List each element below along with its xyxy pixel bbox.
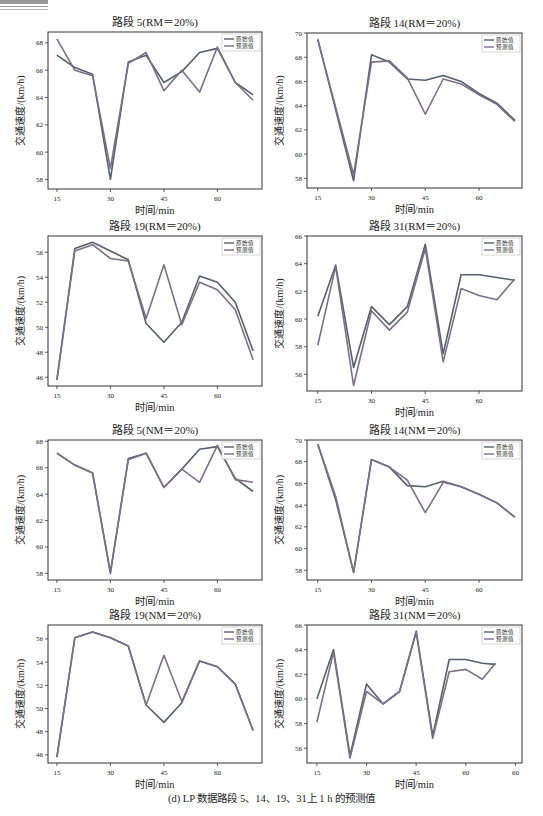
- y-tick-label: 62: [295, 523, 303, 531]
- x-tick-label: 60: [214, 195, 222, 203]
- series-original-line: [318, 444, 515, 572]
- y-tick-label: 64: [295, 646, 303, 654]
- legend-label: 原始值: [496, 36, 514, 44]
- y-tick-label: 60: [36, 543, 44, 551]
- x-tick-label: 30: [107, 392, 115, 400]
- y-axis-label: 交通速度/(km/h): [14, 276, 27, 346]
- legend-label: 预测值: [236, 450, 254, 458]
- y-tick-label: 54: [36, 659, 44, 667]
- y-tick-label: 68: [36, 39, 44, 47]
- plot-frame: [48, 625, 262, 763]
- x-tick-label: 30: [368, 397, 376, 405]
- y-tick-label: 64: [295, 502, 303, 510]
- chart-title: 路段 31(RM＝20%): [369, 219, 461, 233]
- x-tick-label: 45: [422, 586, 430, 594]
- y-tick-label: 68: [295, 458, 303, 466]
- y-tick-label: 46: [36, 374, 44, 382]
- x-tick-label: 45: [422, 194, 430, 202]
- y-tick-label: 60: [295, 545, 303, 553]
- y-tick-label: 66: [295, 622, 303, 630]
- y-tick-label: 52: [36, 299, 44, 307]
- legend-label: 原始值: [236, 628, 254, 636]
- series-original-line: [57, 48, 253, 179]
- y-tick-label: 70: [295, 30, 303, 38]
- y-tick-label: 62: [295, 288, 303, 296]
- x-tick-label: 45: [160, 586, 168, 594]
- y-tick-label: 58: [295, 567, 303, 575]
- y-tick-label: 60: [295, 316, 303, 324]
- y-tick-label: 58: [295, 343, 303, 351]
- y-tick-label: 46: [36, 751, 44, 759]
- y-tick-label: 62: [295, 126, 303, 134]
- chart-legend: 原始值预测值: [222, 442, 260, 459]
- legend-label: 预测值: [236, 246, 254, 254]
- y-axis-label: 交通速度/(km/h): [273, 279, 286, 349]
- y-tick-label: 70: [295, 437, 303, 445]
- x-tick-label: 60: [476, 397, 484, 405]
- x-tick-label: 60: [476, 194, 484, 202]
- y-tick-label: 64: [295, 102, 303, 110]
- x-axis-label: 时间/min: [395, 406, 435, 418]
- x-axis-label: 时间/min: [395, 595, 435, 607]
- y-tick-label: 54: [36, 274, 44, 282]
- series-predicted-line: [318, 249, 515, 386]
- y-tick-label: 52: [36, 682, 44, 690]
- x-axis-label: 时间/min: [135, 401, 175, 413]
- chart-title: 路段 14(RM＝20%): [369, 16, 461, 30]
- x-tick-label: 15: [314, 586, 322, 594]
- y-tick-label: 58: [36, 176, 44, 184]
- chart-title: 路段 19(RM＝20%): [109, 219, 201, 233]
- legend-label: 预测值: [496, 635, 514, 643]
- plot-frame: [307, 236, 522, 391]
- x-tick-label: 45: [160, 392, 168, 400]
- y-tick-label: 66: [295, 78, 303, 86]
- x-tick-label: 15: [314, 194, 322, 202]
- chart-seg31-nm: 路段 31(NM＝20%)5658606264661530456060时间/mi…: [273, 608, 522, 790]
- legend-label: 原始值: [496, 443, 514, 451]
- x-tick-label: 15: [53, 195, 61, 203]
- x-tick-label: 60: [476, 586, 484, 594]
- y-axis-label: 交通速度/(km/h): [14, 659, 27, 729]
- chart-legend: 原始值预测值: [482, 35, 520, 52]
- chart-seg5-rm: 路段 5(RM＝20%)58606264666815304560时间/min交通…: [14, 15, 262, 216]
- y-tick-label: 56: [295, 745, 303, 753]
- y-tick-label: 56: [36, 635, 44, 643]
- y-tick-label: 60: [36, 149, 44, 157]
- series-predicted-line: [318, 444, 515, 572]
- chart-seg14-nm: 路段 14(NM＝20%)5860626466687015304560时间/mi…: [273, 423, 522, 607]
- figure-panel-grid: 路段 5(RM＝20%)58606264666815304560时间/min交通…: [0, 0, 543, 816]
- series-predicted-line: [57, 445, 253, 572]
- x-tick-label: 15: [314, 397, 322, 405]
- x-tick-label: 15: [53, 586, 61, 594]
- y-tick-label: 64: [36, 94, 44, 102]
- chart-title: 路段 5(NM＝20%): [112, 423, 199, 437]
- y-axis-label: 交通速度/(km/h): [273, 76, 286, 146]
- chart-legend: 原始值预测值: [482, 442, 520, 459]
- plot-frame: [48, 236, 262, 386]
- plot-frame: [307, 33, 522, 188]
- y-tick-label: 66: [295, 480, 303, 488]
- x-tick-label: 60: [462, 769, 470, 777]
- y-tick-label: 66: [36, 67, 44, 75]
- y-tick-label: 58: [36, 570, 44, 578]
- chart-legend: 原始值预测值: [482, 627, 520, 644]
- y-axis-label: 交通速度/(km/h): [14, 475, 27, 545]
- x-tick-label: 60: [512, 769, 520, 777]
- x-tick-label: 15: [53, 769, 61, 777]
- x-tick-label: 15: [313, 769, 321, 777]
- series-original-line: [57, 632, 253, 757]
- legend-label: 原始值: [236, 239, 254, 247]
- legend-label: 原始值: [496, 239, 514, 247]
- x-tick-label: 60: [214, 769, 222, 777]
- y-tick-label: 50: [36, 705, 44, 713]
- series-original-line: [318, 39, 515, 181]
- chart-seg19-nm: 路段 19(NM＝20%)46485052545615304560时间/min交…: [14, 608, 262, 790]
- y-tick-label: 68: [295, 54, 303, 62]
- x-tick-label: 30: [107, 195, 115, 203]
- x-axis-label: 时间/min: [395, 778, 435, 790]
- x-tick-label: 30: [368, 194, 376, 202]
- y-tick-label: 58: [295, 175, 303, 183]
- chart-seg31-rm: 路段 31(RM＝20%)56586062646615304560时间/min交…: [273, 219, 522, 418]
- x-tick-label: 15: [53, 392, 61, 400]
- legend-label: 预测值: [496, 246, 514, 254]
